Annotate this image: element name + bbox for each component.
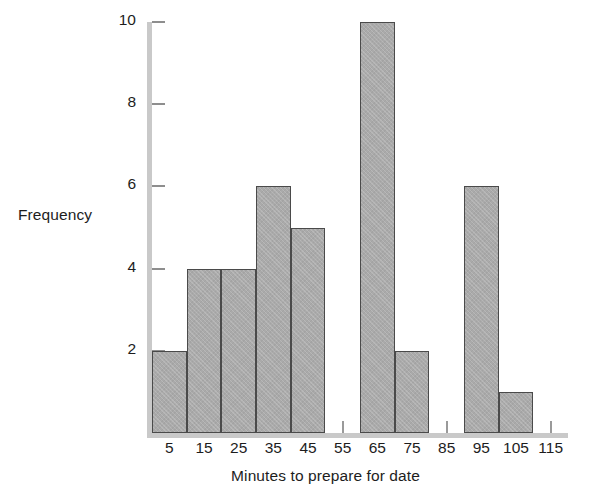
y-tick-4: 4 [152,268,165,270]
x-tick-label-95: 95 [473,439,490,457]
x-tick-label-45: 45 [299,439,316,457]
bar-35 [256,186,291,433]
x-axis-title-text: Minutes to prepare for date [169,467,420,485]
y-tick-8: 8 [152,103,165,105]
y-tick-6: 6 [152,185,165,187]
bar-5 [152,351,187,433]
x-tick-115 [550,421,552,433]
x-tick-label-35: 35 [265,439,282,457]
plot-area: 0246810 5152535455565758595105115 [152,22,568,433]
bar-95 [464,186,499,433]
x-tick-label-15: 15 [195,439,212,457]
y-tick-10: 10 [152,21,165,23]
y-tick-label-6: 6 [127,175,136,193]
bar-75 [395,351,430,433]
y-tick-label-8: 8 [127,93,136,111]
y-tick-label-4: 4 [127,258,136,276]
bar-15 [187,269,222,433]
bar-105 [499,392,534,433]
x-tick-85 [446,421,448,433]
bar-45 [291,228,326,434]
x-tick-label-65: 65 [369,439,386,457]
y-tick-label-0: 0 [127,422,136,440]
x-tick-label-5: 5 [165,439,174,457]
x-tick-label-105: 105 [503,439,529,457]
x-tick-label-75: 75 [403,439,420,457]
y-tick-label-10: 10 [119,11,136,29]
x-tick-55 [342,421,344,433]
x-tick-label-85: 85 [438,439,455,457]
x-tick-label-115: 115 [538,439,563,457]
y-tick-label-2: 2 [127,340,136,358]
x-axis-title: Minutes to prepare for date [0,467,589,485]
x-tick-label-25: 25 [230,439,247,457]
bar-65 [360,22,395,433]
bar-25 [221,269,256,433]
histogram-chart: Frequency 0246810 5152535455565758595105… [0,0,589,501]
x-axis-line [147,433,568,438]
y-axis-title: Frequency [18,206,92,224]
x-tick-label-55: 55 [334,439,351,457]
